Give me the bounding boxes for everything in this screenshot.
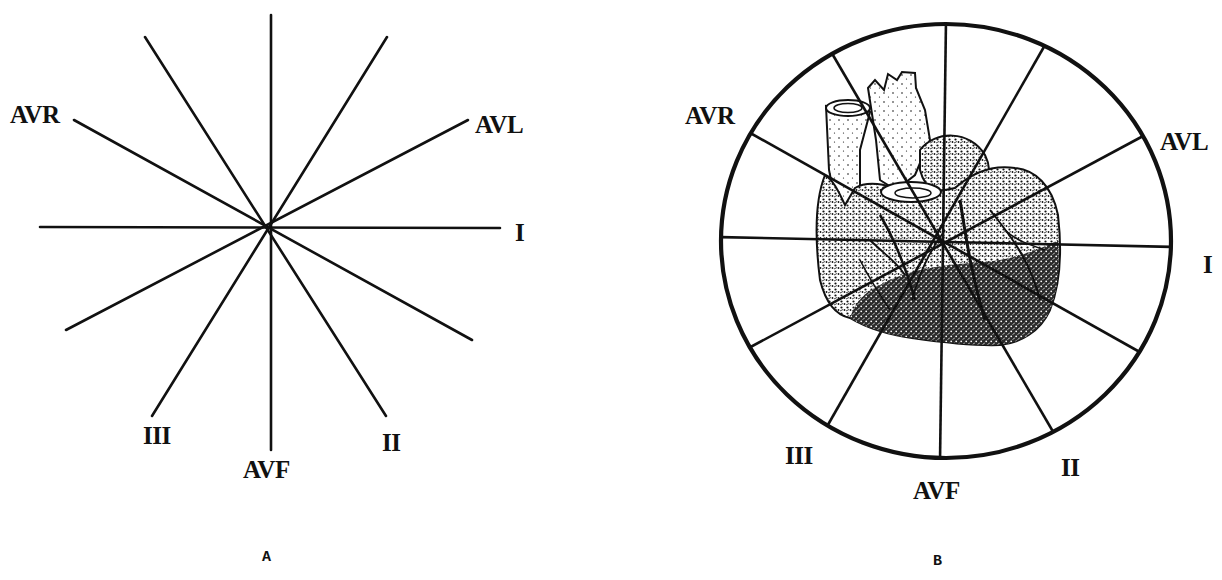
panel-b-label-ii: II bbox=[1061, 455, 1079, 480]
hexaxial-figure: AVR AVL I II III AVF A bbox=[0, 0, 1222, 580]
panel-b-label-avr: AVR bbox=[685, 103, 734, 128]
panel-b-label-avf: AVF bbox=[913, 478, 960, 503]
panel-b-label-i: I bbox=[1203, 252, 1212, 277]
heart-illustration bbox=[817, 72, 1060, 345]
panel-b-diagram bbox=[0, 0, 1222, 580]
panel-b-letter: B bbox=[933, 554, 942, 569]
panel-b-axes bbox=[716, 20, 1176, 462]
panel-b-label-avl: AVL bbox=[1160, 129, 1208, 154]
panel-b-label-iii: III bbox=[785, 443, 813, 468]
